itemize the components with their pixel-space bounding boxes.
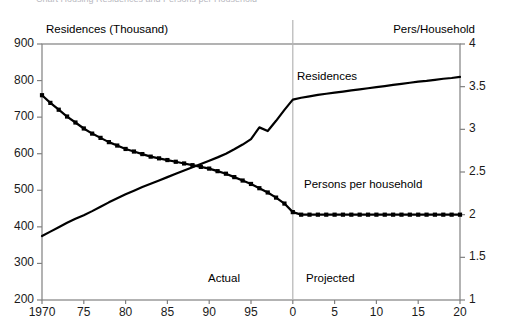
series-marker: [366, 213, 370, 217]
left-tick-label: 300: [0, 256, 34, 269]
series-marker: [124, 147, 128, 151]
left-tick-label: 600: [0, 147, 34, 160]
series-marker: [333, 213, 337, 217]
series-marker: [291, 210, 295, 214]
right-tick-label: 1.5: [469, 250, 503, 263]
x-tick-label: 90: [187, 306, 231, 319]
series-marker: [441, 213, 445, 217]
series-marker: [98, 136, 102, 140]
series-marker: [374, 213, 378, 217]
series-line-residences: [42, 77, 460, 236]
series-marker: [241, 178, 245, 182]
x-tick-label: 5: [313, 306, 357, 319]
right-tick-label: 4: [469, 37, 503, 50]
left-tick-label: 400: [0, 220, 34, 233]
series-marker: [57, 108, 61, 112]
x-tick-label: 10: [354, 306, 398, 319]
right-tick-label: 1: [469, 293, 503, 306]
series-marker: [165, 158, 169, 162]
right-tick-label: 3.5: [469, 80, 503, 93]
series-marker: [458, 213, 462, 217]
series-marker: [190, 163, 194, 167]
series-marker: [358, 213, 362, 217]
series-marker: [274, 196, 278, 200]
series-marker: [149, 155, 153, 159]
x-tick-label: 1970: [20, 306, 64, 319]
series-marker: [224, 172, 228, 176]
right-tick-label: 2: [469, 208, 503, 221]
left-tick-label: 800: [0, 74, 34, 87]
series-marker: [324, 213, 328, 217]
series-marker: [73, 120, 77, 124]
plot-frame: [42, 44, 460, 300]
series-marker: [90, 132, 94, 136]
series-marker: [174, 160, 178, 164]
series-marker: [450, 213, 454, 217]
series-marker: [82, 126, 86, 130]
series-marker: [140, 152, 144, 156]
series-marker: [391, 213, 395, 217]
series-marker: [182, 161, 186, 165]
series-marker: [40, 93, 44, 97]
series-marker: [215, 169, 219, 173]
series-marker: [299, 213, 303, 217]
series-marker: [207, 166, 211, 170]
series-marker: [115, 143, 119, 147]
series-marker: [349, 213, 353, 217]
series-marker: [282, 201, 286, 205]
series-marker: [399, 213, 403, 217]
series-marker: [341, 213, 345, 217]
series-marker: [416, 213, 420, 217]
right-tick-label: 3: [469, 122, 503, 135]
series-marker: [65, 114, 69, 118]
series-marker: [107, 140, 111, 144]
series-marker: [257, 186, 261, 190]
left-tick-label: 500: [0, 183, 34, 196]
x-tick-label: 85: [145, 306, 189, 319]
left-tick-label: 900: [0, 37, 34, 50]
series-marker: [383, 213, 387, 217]
series-marker: [433, 213, 437, 217]
series-marker: [48, 101, 52, 105]
series-line-persons-per-household: [42, 95, 460, 214]
x-tick-label: 15: [396, 306, 440, 319]
plot-canvas: [0, 0, 513, 332]
series-marker: [157, 156, 161, 160]
x-tick-label: 80: [104, 306, 148, 319]
series-marker: [232, 175, 236, 179]
series-marker: [132, 149, 136, 153]
series-marker: [199, 165, 203, 169]
series-marker: [424, 213, 428, 217]
x-tick-label: 20: [438, 306, 482, 319]
series-marker: [307, 213, 311, 217]
series-marker: [249, 182, 253, 186]
x-tick-label: 95: [229, 306, 273, 319]
x-tick-label: 0: [271, 306, 315, 319]
right-tick-label: 2.5: [469, 165, 503, 178]
series-marker: [408, 213, 412, 217]
series-marker: [316, 213, 320, 217]
x-tick-label: 75: [62, 306, 106, 319]
left-tick-label: 700: [0, 110, 34, 123]
series-marker: [266, 190, 270, 194]
chart-figure: Chart Housing Residences and Persons per…: [0, 0, 513, 332]
